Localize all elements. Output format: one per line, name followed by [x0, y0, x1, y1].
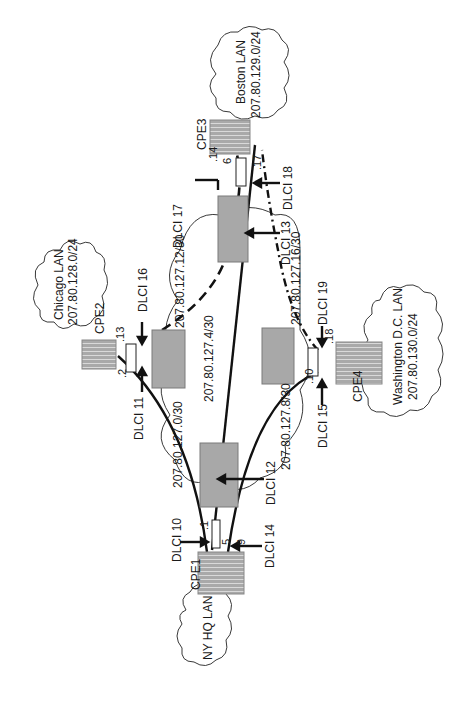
cpe3-label: CPE3: [195, 118, 209, 150]
host-id-2: .2: [116, 369, 128, 378]
subnet-4-label: 207.80.127.4/30: [202, 315, 216, 402]
host-id-14: .14: [207, 147, 219, 162]
subnet-16-label: 207.80.127.16/30: [289, 231, 303, 325]
dlci-11-label: DLCI 11: [132, 397, 146, 440]
host-id-6: 6: [221, 158, 233, 164]
cpe1-router: [198, 552, 244, 594]
host-id-18: .18: [323, 329, 335, 344]
dlci-10-arrow: [180, 538, 208, 546]
dlci-11-arrow: [138, 368, 146, 392]
host-id-13: .13: [114, 327, 126, 342]
host-id-1: .1: [198, 521, 210, 530]
cpe4-label: CPE4: [351, 370, 365, 402]
fr-switch-bottom: [200, 443, 238, 507]
fr-switch-top: [218, 196, 248, 262]
dc-lan-subnet: 207.80.130.0/24: [406, 313, 420, 400]
cpe3-interface: [236, 158, 246, 186]
dlci-12-arrow: [218, 475, 264, 483]
lan-cloud-ny: NY HQ LAN: [177, 584, 232, 666]
dlci-15-arrow: [318, 380, 326, 405]
subnet-0-label: 207.80.127.0/30: [171, 401, 185, 488]
cpe1-interface: [212, 520, 220, 548]
chicago-lan-name: Chicago LAN: [52, 249, 66, 320]
cpe2-interface: [126, 344, 136, 372]
dlci-15-label: DLCI 15: [316, 404, 330, 448]
ny-lan-name: NY HQ LAN: [201, 596, 215, 660]
cpe2-router: [82, 340, 116, 369]
dlci-12-label: DLCI 12: [264, 461, 278, 505]
chicago-lan-subnet: 207.80.128.0/24: [66, 238, 80, 325]
network-diagram: Boston LAN 207.80.129.0/24 Chicago LAN 2…: [0, 0, 457, 708]
dlci-17-arrow: [195, 180, 218, 190]
boston-lan-name: Boston LAN: [234, 40, 248, 104]
host-id-5: .5: [220, 539, 232, 548]
subnet-8-label: 207.80.127.8/30: [279, 383, 293, 470]
dlci-14-label: DLCI 14: [263, 524, 277, 568]
host-id-17: .17: [251, 155, 263, 170]
cpe2-label: CPE2: [93, 302, 107, 334]
dlci-16-arrow: [138, 322, 146, 344]
host-id-10: .10: [303, 369, 315, 384]
fr-switch-left: [152, 330, 185, 388]
cpe1-label: CPE1: [189, 558, 203, 590]
dlci-18-label: DLCI 18: [281, 166, 295, 210]
host-id-9: .9: [235, 539, 247, 548]
dc-lan-name: Washington D.C. LAN: [391, 288, 405, 405]
boston-lan-subnet: 207.80.129.0/24: [249, 31, 263, 118]
subnet-12-label: 207.80.127.12/30: [173, 234, 187, 328]
dlci-10-label: DLCI 10: [170, 518, 184, 562]
dlci-16-label: DLCI 16: [136, 268, 150, 312]
lan-cloud-boston: Boston LAN 207.80.129.0/24: [210, 26, 289, 119]
dlci-19-label: DLCI 19: [316, 281, 330, 325]
fr-switch-right: [262, 328, 294, 384]
